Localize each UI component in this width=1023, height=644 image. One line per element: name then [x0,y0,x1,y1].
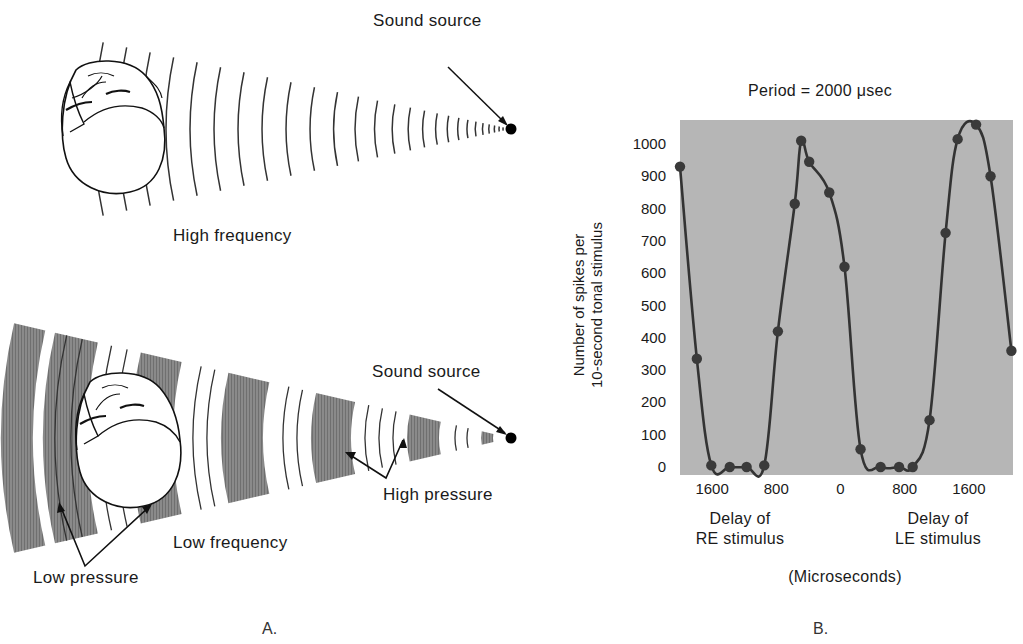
y-tick-label: 300 [618,361,666,378]
y-axis-label: Number of spikes per 10-second tonal sti… [570,222,606,388]
x-tick-label: 1600 [687,480,737,497]
x-label-re-line1: Delay of [685,509,795,529]
y-tick-label: 600 [618,264,666,281]
data-point [741,462,751,472]
data-point [824,187,834,197]
data-point [725,462,735,472]
data-point [796,136,806,146]
low-frequency-caption: Low frequency [173,533,287,553]
data-point [1006,346,1016,356]
sound-source-label-bottom: Sound source [372,362,481,382]
low-pressure-label: Low pressure [33,568,139,588]
data-point [855,444,865,454]
x-tick-label: 800 [751,480,801,497]
data-point [692,354,702,364]
data-point [839,262,849,272]
chart-title: Period = 2000 μsec [748,82,892,100]
x-tick-label: 1600 [944,480,994,497]
y-tick-label: 100 [618,426,666,443]
sound-source-bottom-dot [506,433,517,444]
y-tick-label: 500 [618,297,666,314]
data-point [940,228,950,238]
high-frequency-caption: High frequency [173,226,292,246]
data-point [675,161,685,171]
data-point [985,171,995,181]
low-frequency-wavefronts [1,323,493,552]
data-point [894,462,904,472]
y-tick-label: 700 [618,232,666,249]
x-tick-label: 0 [815,480,865,497]
x-tick-label: 800 [880,480,930,497]
y-tick-label: 200 [618,393,666,410]
data-point [706,460,716,470]
y-tick-label: 400 [618,329,666,346]
y-tick-label: 0 [618,458,666,475]
data-point [924,415,934,425]
source-arrow-top [448,67,506,124]
data-point [907,462,917,472]
x-label-le-line1: Delay of [883,509,993,529]
x-label-le-line2: LE stimulus [883,529,993,549]
data-point [773,326,783,336]
high-pressure-label: High pressure [383,485,493,505]
data-point [804,157,814,167]
y-tick-label: 1000 [618,135,666,152]
y-tick-label: 900 [618,167,666,184]
panel-b-letter: B. [813,620,828,638]
x-label-re-line2: RE stimulus [685,529,795,549]
y-axis-label-line2: 10-second tonal stimulus [588,222,606,388]
arrowhead-icon [399,438,407,448]
panel-a-letter: A. [262,620,277,638]
y-tick-label: 800 [618,200,666,217]
sound-source-label-top: Sound source [373,11,482,31]
data-point [971,119,981,129]
y-axis-label-line1: Number of spikes per [570,222,588,388]
head-top-icon [62,61,165,194]
x-label-re: Delay of RE stimulus [685,509,795,549]
x-units-label: (Microseconds) [780,568,910,586]
source-arrow-bottom [438,389,505,433]
x-label-le: Delay of LE stimulus [883,509,993,549]
data-point [875,462,885,472]
data-point [759,460,769,470]
high-pressure-arrows [347,440,403,478]
data-point [952,134,962,144]
data-point [790,199,800,209]
